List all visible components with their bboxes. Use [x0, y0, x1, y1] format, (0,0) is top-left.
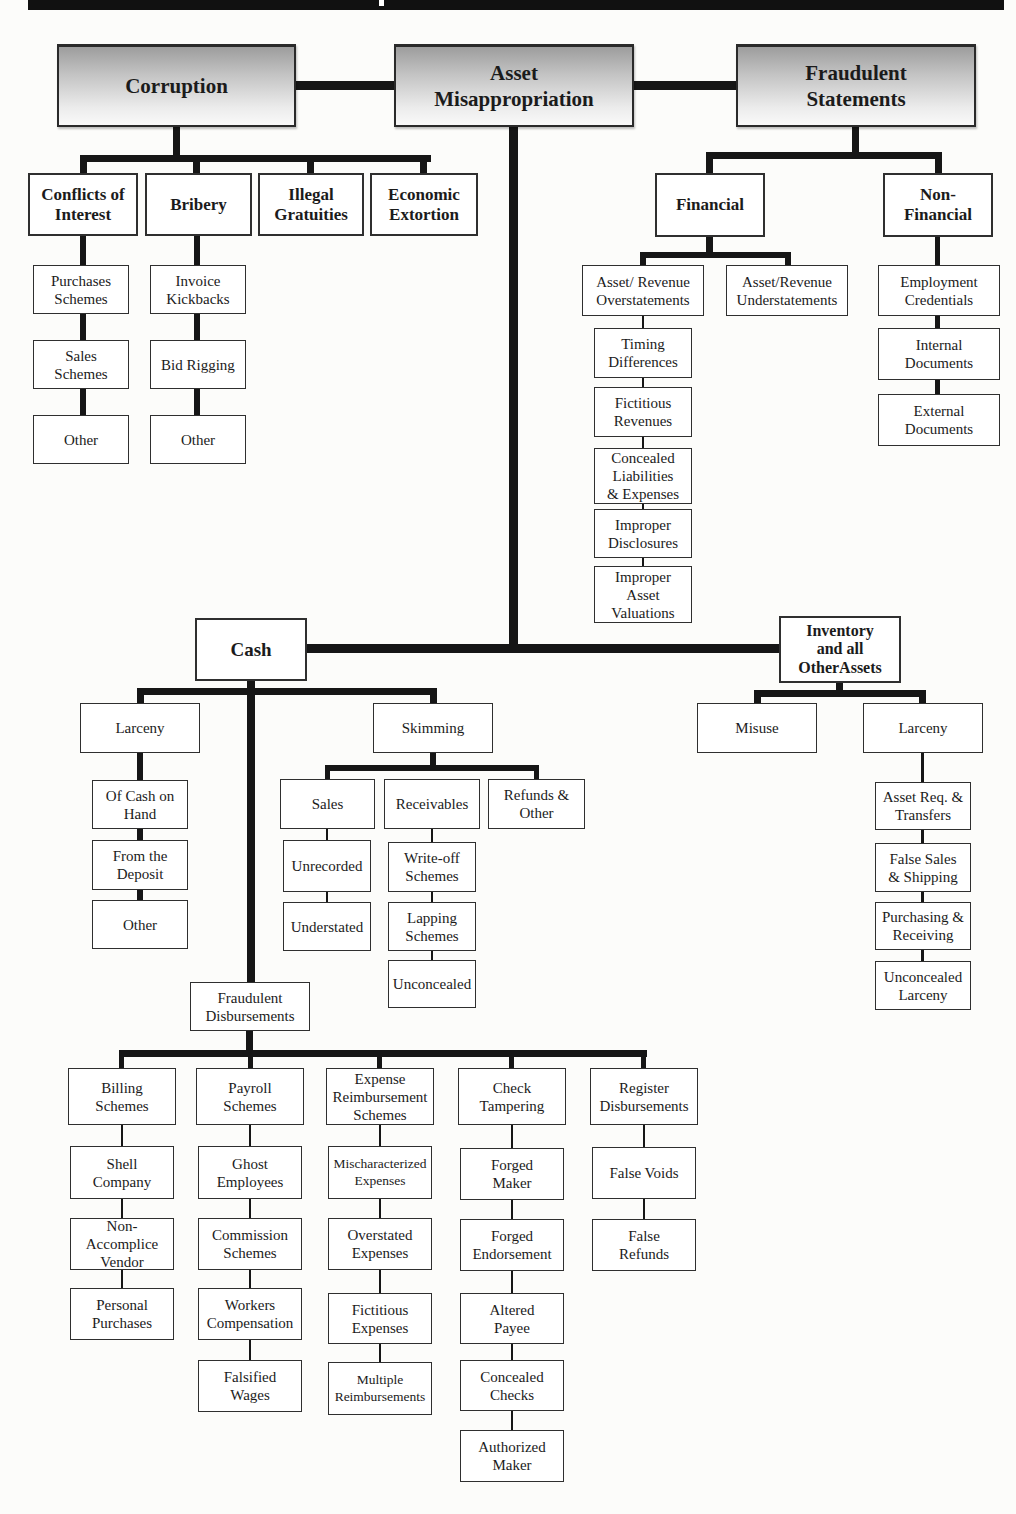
connector-line — [754, 690, 926, 697]
node-mischaracterized-expenses: Mischaracterized Expenses — [328, 1146, 432, 1199]
connector-line — [379, 1125, 381, 1146]
connector-line — [249, 1199, 251, 1218]
connector-line — [642, 558, 644, 566]
connector-line — [706, 152, 713, 173]
node-lapping-schemes: Lapping Schemes — [388, 902, 476, 951]
connector-line — [307, 155, 314, 173]
connector-line — [194, 314, 200, 340]
connector-line — [511, 1411, 513, 1430]
connector-line — [247, 681, 255, 982]
node-check-tampering: Check Tampering — [458, 1068, 566, 1125]
connector-line — [534, 765, 539, 779]
node-forged-maker: Forged Maker — [460, 1148, 564, 1200]
connector-line — [935, 316, 940, 328]
connector-line — [921, 753, 924, 782]
node-bid-rigging: Bid Rigging — [150, 340, 246, 389]
connector-line — [921, 950, 924, 961]
node-expense-reimbursement-schemes: Expense Reimbursement Schemes — [326, 1068, 434, 1125]
connector-line — [706, 237, 713, 252]
connector-line — [249, 1125, 251, 1146]
connector-line — [642, 316, 644, 328]
node-inventory-other-assets: Inventory and all OtherAssets — [779, 616, 901, 683]
node-billing-schemes: Billing Schemes — [68, 1068, 176, 1125]
node-concealed-liabilities-expenses: Concealed Liabilities & Expenses — [594, 448, 692, 504]
connector-line — [642, 437, 644, 448]
connector-line — [296, 81, 394, 90]
connector-line — [80, 236, 86, 265]
node-overstated-expenses: Overstated Expenses — [328, 1218, 432, 1270]
node-false-refunds: False Refunds — [592, 1219, 696, 1271]
node-misuse: Misuse — [697, 703, 817, 753]
connector-line — [643, 1199, 645, 1219]
node-of-cash-on-hand: Of Cash on Hand — [92, 780, 188, 829]
connector-line — [754, 690, 761, 703]
node-financial: Financial — [655, 173, 765, 237]
connector-line — [326, 892, 328, 902]
connector-line — [307, 644, 779, 653]
connector-line — [379, 1270, 381, 1293]
node-forged-endorsement: Forged Endorsement — [460, 1219, 564, 1271]
node-ghost-employees: Ghost Employees — [198, 1146, 302, 1199]
node-asset-misappropriation: Asset Misappropriation — [394, 44, 634, 127]
node-purchases-schemes: Purchases Schemes — [33, 265, 129, 314]
node-fictitious-expenses: Fictitious Expenses — [328, 1293, 432, 1344]
connector-line — [785, 252, 791, 265]
node-false-voids: False Voids — [592, 1147, 696, 1199]
node-non-financial: Non- Financial — [883, 173, 993, 237]
node-fraudulent-disbursements: Fraudulent Disbursements — [190, 982, 310, 1031]
node-register-disbursements: Register Disbursements — [590, 1068, 698, 1125]
connector-line — [921, 892, 924, 902]
connector-line — [194, 389, 200, 415]
node-altered-payee: Altered Payee — [460, 1293, 564, 1344]
connector-line — [249, 1340, 251, 1360]
node-non-accomplice-vendor: Non- Accomplice Vendor — [70, 1218, 174, 1270]
connector-line — [326, 829, 328, 840]
node-asset-revenue-understatements: Asset/Revenue Understatements — [726, 265, 848, 316]
connector-line — [935, 152, 942, 173]
connector-line — [935, 237, 940, 265]
fraud-tree-diagram-page: Corruption Asset Misappropriation Fraudu… — [0, 0, 1016, 1514]
connector-line — [80, 155, 431, 162]
connector-line — [706, 152, 942, 159]
connector-line — [641, 1050, 646, 1068]
connector-line — [121, 1199, 123, 1218]
node-commission-schemes: Commission Schemes — [198, 1218, 302, 1270]
node-cash-larceny-other: Other — [92, 900, 188, 949]
connector-line — [509, 127, 518, 653]
connector-line — [121, 1125, 123, 1146]
node-cash-larceny: Larceny — [80, 703, 200, 753]
connector-line — [137, 753, 143, 780]
node-employment-credentials: Employment Credentials — [878, 265, 1000, 316]
node-bribery: Bribery — [145, 173, 252, 236]
node-improper-asset-valuations: Improper Asset Valuations — [594, 566, 692, 623]
connector-line — [193, 155, 200, 173]
node-conflicts-other: Other — [33, 415, 129, 464]
connector-line — [431, 892, 433, 902]
node-concealed-checks: Concealed Checks — [460, 1360, 564, 1411]
connector-line — [137, 688, 437, 695]
connector-line — [80, 314, 86, 340]
node-corruption: Corruption — [57, 44, 296, 127]
node-external-documents: External Documents — [878, 394, 1000, 446]
connector-line — [509, 1050, 514, 1068]
connector-line — [640, 252, 791, 258]
node-false-sales-shipping: False Sales & Shipping — [875, 843, 971, 892]
connector-line — [430, 688, 437, 703]
node-sales-schemes: Sales Schemes — [33, 340, 129, 389]
node-refunds-other: Refunds & Other — [488, 779, 585, 829]
node-fraudulent-statements: Fraudulent Statements — [736, 44, 976, 127]
connector-line — [137, 890, 143, 900]
connector-line — [121, 1270, 123, 1288]
connector-line — [137, 688, 144, 703]
node-shell-company: Shell Company — [70, 1146, 174, 1199]
node-unrecorded: Unrecorded — [283, 840, 371, 892]
connector-line — [634, 81, 736, 90]
node-write-off-schemes: Write-off Schemes — [388, 842, 476, 892]
connector-line — [511, 1125, 513, 1148]
connector-line — [511, 1271, 513, 1293]
node-personal-purchases: Personal Purchases — [70, 1288, 174, 1340]
connector-line — [248, 1050, 253, 1068]
node-receivables: Receivables — [384, 779, 480, 829]
node-understated: Understated — [283, 902, 371, 951]
connector-line — [246, 1031, 253, 1050]
